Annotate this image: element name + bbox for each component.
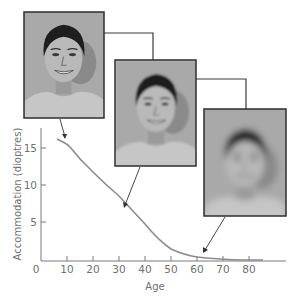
- y-tick-label: 5: [30, 216, 37, 228]
- connector-line-2: [196, 79, 246, 109]
- heavily-blurred-face-photo: [204, 109, 286, 223]
- y-axis-title: Accommodation (dioptres): [12, 128, 23, 261]
- x-tick-label: 20: [86, 263, 99, 275]
- x-tick-label: 70: [216, 263, 229, 275]
- x-tick-label: 0: [33, 263, 40, 275]
- x-tick-label: 80: [242, 263, 255, 275]
- slightly-blurred-face-photo: [115, 60, 197, 168]
- arrow-photo3-to-curve: [203, 217, 225, 253]
- arrow-photo2-to-curve: [123, 167, 140, 208]
- connector-line-1: [104, 33, 153, 60]
- y-ticks: [41, 148, 46, 222]
- sharp-face-photo: [23, 11, 104, 118]
- x-tick-label: 50: [164, 263, 177, 275]
- x-tick-label: 30: [112, 263, 125, 275]
- accommodation-chart: 15 10 5 0 10 20 30 40 50 60 70 80 Age Ac…: [0, 0, 301, 299]
- x-tick-label: 60: [190, 263, 203, 275]
- y-tick-label: 10: [24, 179, 37, 191]
- x-axis-title: Age: [145, 281, 164, 292]
- arrow-photo1-to-curve: [60, 119, 67, 139]
- y-tick-label: 15: [24, 142, 37, 154]
- x-tick-label: 40: [138, 263, 151, 275]
- x-tick-label: 10: [60, 263, 73, 275]
